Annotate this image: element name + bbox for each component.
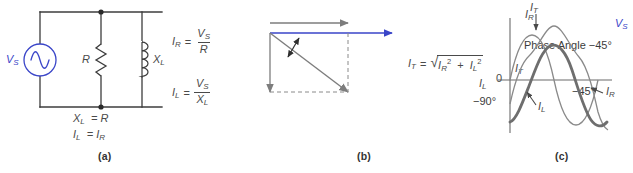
figure-container: VS R XL XL = R IL = IR IR = VS R IL =	[0, 0, 633, 173]
ac-source-symbol	[24, 44, 56, 76]
caption-b: (b)	[357, 150, 371, 162]
waveform-il	[510, 45, 607, 126]
note-il-equals-ir: IL = IR	[73, 128, 105, 142]
waveform-it	[510, 26, 608, 130]
panel-b-phasor: IR VS 0° IL −90° IT −45° Phase Angle −45…	[220, 0, 490, 173]
junction-dot-bottom	[98, 104, 103, 109]
panel-c-waveforms: 0 IT IL IR	[490, 0, 633, 173]
origin-label: 0	[496, 72, 502, 84]
resistor-symbol	[96, 44, 106, 76]
equation-it-magnitude: IT = √ IR2 + IL2	[408, 55, 483, 73]
resistor-label: R	[82, 53, 90, 65]
square-root-expression: √ IR2 + IL2	[430, 55, 483, 73]
pointer-il	[527, 92, 536, 105]
equation-il: IL = VS XL	[172, 78, 211, 108]
waveform-label-ir: IR	[606, 85, 615, 99]
phasor-it-arrow	[270, 33, 348, 92]
note-xl-equals-r: XL = R	[73, 112, 108, 126]
junction-dot-top	[98, 9, 103, 14]
caption-a: (a)	[98, 150, 111, 162]
equation-ir: IR = VS R	[172, 28, 212, 56]
caption-c: (c)	[555, 150, 568, 162]
inductor-label: XL	[153, 53, 165, 67]
source-label: VS	[6, 53, 19, 67]
phasor-label-il: IL	[479, 77, 487, 91]
inductor-symbol	[135, 41, 148, 78]
waveform-label-it: IT	[530, 1, 538, 15]
fraction-vs-over-xl: VS XL	[194, 78, 211, 108]
fraction-vs-over-r: VS R	[195, 28, 212, 56]
phasor-diagram	[220, 0, 490, 173]
waveform-label-il: IL	[538, 100, 546, 114]
